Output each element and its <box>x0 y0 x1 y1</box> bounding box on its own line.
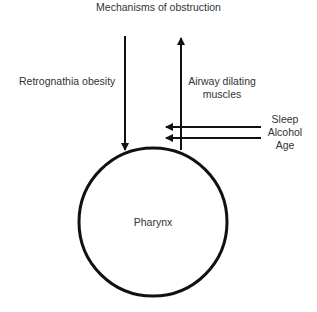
dilators-line-2: muscles <box>182 88 262 101</box>
factor-sleep: Sleep <box>258 113 312 126</box>
dilators-line-1: Airway dilating <box>182 75 262 88</box>
factor-alcohol: Alcohol <box>258 126 312 139</box>
inhibitor-factors-list: Sleep Alcohol Age <box>258 113 312 152</box>
retrognathia-obesity-label: Retrognathia obesity <box>19 75 115 88</box>
pharynx-label: Pharynx <box>113 216 193 229</box>
diagram-title: Mechanisms of obstruction <box>0 1 317 14</box>
diagram-canvas <box>0 0 317 312</box>
airway-dilating-muscles-label: Airway dilating muscles <box>182 75 262 101</box>
factor-age: Age <box>258 139 312 152</box>
